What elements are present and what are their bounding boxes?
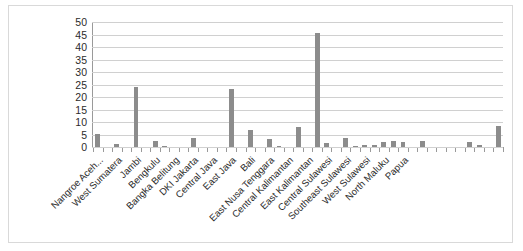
x-tick-36 (436, 148, 437, 152)
bar-DKI Jakarta (191, 138, 196, 148)
bar-Gorontalo (353, 146, 358, 147)
x-tick-32 (398, 148, 399, 152)
x-tick-5 (141, 148, 142, 152)
x-tick-14 (226, 148, 227, 152)
x-tick-3 (122, 148, 123, 152)
bar-Bali (248, 130, 253, 148)
bar-39 (467, 142, 472, 147)
bar-East Java (229, 89, 234, 147)
y-tick-label-45: 45 (61, 30, 87, 40)
x-tick-4 (131, 148, 132, 152)
x-tick-34 (417, 148, 418, 152)
x-tick-26 (341, 148, 342, 152)
x-tick-13 (217, 148, 218, 152)
y-axis-labels: 05101520253035404550 (59, 22, 87, 148)
x-tick-22 (303, 148, 304, 152)
chart-frame: 05101520253035404550 Nangroe Aceh...West… (8, 5, 513, 243)
bar-West Sumatera (114, 144, 119, 147)
y-tick-label-5: 5 (61, 130, 87, 140)
bar-West Kalimantan (277, 146, 282, 147)
x-tick-9 (179, 148, 180, 152)
x-tick-42 (493, 148, 494, 152)
y-tick-label-0: 0 (61, 142, 87, 152)
x-tick-23 (312, 148, 313, 152)
bar-Southeast Sulawesi (343, 138, 348, 147)
x-tick-27 (350, 148, 351, 152)
x-tick-28 (360, 148, 361, 152)
bar-series (93, 22, 503, 147)
x-tick-30 (379, 148, 380, 152)
x-tick-37 (446, 148, 447, 152)
bar-40 (477, 145, 482, 147)
x-axis-labels: Nangroe Aceh...West SumateraJambiBengkul… (9, 153, 512, 241)
y-tick-label-25: 25 (61, 80, 87, 90)
x-tick-24 (322, 148, 323, 152)
x-tick-12 (207, 148, 208, 152)
bar-West Papua (391, 141, 396, 147)
y-tick-label-30: 30 (61, 67, 87, 77)
x-tick-1 (103, 148, 104, 152)
bar-West Sulawesi (362, 145, 367, 147)
x-tick-6 (150, 148, 151, 152)
bar-Bengkulu (153, 141, 158, 148)
x-tick-21 (293, 148, 294, 152)
bar-34 (420, 141, 425, 147)
x-tick-43 (503, 148, 504, 152)
x-tick-0 (93, 148, 94, 152)
x-tick-17 (255, 148, 256, 152)
x-tick-2 (112, 148, 113, 152)
bar-East Nusa Tenggara (267, 139, 272, 147)
bar-South Kalimantan (296, 127, 301, 147)
x-tick-40 (474, 148, 475, 152)
bar-42 (496, 126, 501, 147)
bar-Papua (401, 142, 406, 147)
y-tick-label-10: 10 (61, 117, 87, 127)
y-tick-label-50: 50 (61, 17, 87, 27)
x-tick-31 (389, 148, 390, 152)
y-tick-label-20: 20 (61, 92, 87, 102)
x-tick-15 (236, 148, 237, 152)
x-tick-25 (331, 148, 332, 152)
x-tick-35 (427, 148, 428, 152)
x-tick-20 (284, 148, 285, 152)
bar-North Sulawesi (315, 33, 320, 147)
x-tick-33 (408, 148, 409, 152)
bar-North Maluku (381, 142, 386, 147)
y-tick-label-35: 35 (61, 55, 87, 65)
y-tick-label-40: 40 (61, 42, 87, 52)
x-tick-29 (370, 148, 371, 152)
bar-Lampung (162, 146, 167, 147)
x-tick-41 (484, 148, 485, 152)
bar-Central Sulawesi (324, 143, 329, 147)
y-tick-label-15: 15 (61, 105, 87, 115)
x-tick-7 (160, 148, 161, 152)
x-tick-38 (455, 148, 456, 152)
x-tick-10 (188, 148, 189, 152)
x-tick-8 (169, 148, 170, 152)
x-tick-11 (198, 148, 199, 152)
bar-Maluku (372, 145, 377, 147)
bar-Jambi (134, 87, 139, 147)
x-tick-16 (246, 148, 247, 152)
bar-Nangroe Aceh... (95, 134, 100, 148)
x-tick-19 (274, 148, 275, 152)
x-tick-39 (465, 148, 466, 152)
x-tick-18 (265, 148, 266, 152)
